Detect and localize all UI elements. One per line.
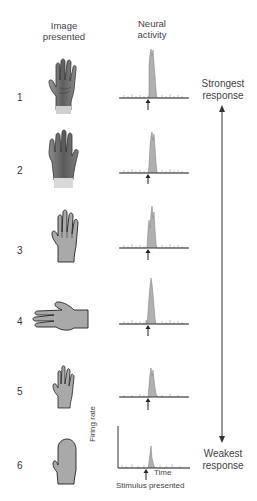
- histogram-6: [108, 424, 192, 482]
- row-number-4: 4: [17, 316, 23, 327]
- row-number-2: 2: [17, 165, 23, 176]
- header-image-line2: presented: [36, 31, 92, 42]
- header-neural-line2: activity: [124, 29, 180, 40]
- histogram-3: [118, 200, 190, 262]
- hand-image-4: [32, 300, 90, 334]
- row-number-5: 5: [17, 386, 23, 397]
- histogram-4: [118, 272, 190, 338]
- response-scale-arrow: [216, 104, 228, 444]
- row-number-1: 1: [17, 92, 23, 103]
- strongest-response-label: Strongest response: [194, 78, 252, 102]
- row-number-6: 6: [17, 460, 23, 471]
- strongest-line2: response: [194, 90, 252, 102]
- header-image-presented: Image presented: [36, 20, 92, 42]
- weakest-response-label: Weakest response: [194, 448, 252, 472]
- hand-image-6: [50, 438, 80, 488]
- hand-image-2: [46, 128, 82, 190]
- stimulus-label: Stimulus presented: [116, 481, 184, 490]
- histogram-2: [118, 126, 190, 186]
- weakest-line2: response: [194, 460, 252, 472]
- histogram-5: [118, 362, 190, 412]
- header-neural-line1: Neural: [124, 18, 180, 29]
- weakest-line1: Weakest: [194, 448, 252, 460]
- hand-image-5: [51, 364, 77, 412]
- strongest-line1: Strongest: [194, 78, 252, 90]
- x-axis-label: Time: [154, 468, 171, 477]
- hand-image-3: [50, 208, 82, 266]
- header-neural-activity: Neural activity: [124, 18, 180, 40]
- row-number-3: 3: [17, 245, 23, 256]
- hand-image-1: [46, 56, 82, 116]
- header-image-line1: Image: [36, 20, 92, 31]
- histogram-1: [118, 46, 190, 112]
- y-axis-label: Firing rate: [88, 406, 97, 442]
